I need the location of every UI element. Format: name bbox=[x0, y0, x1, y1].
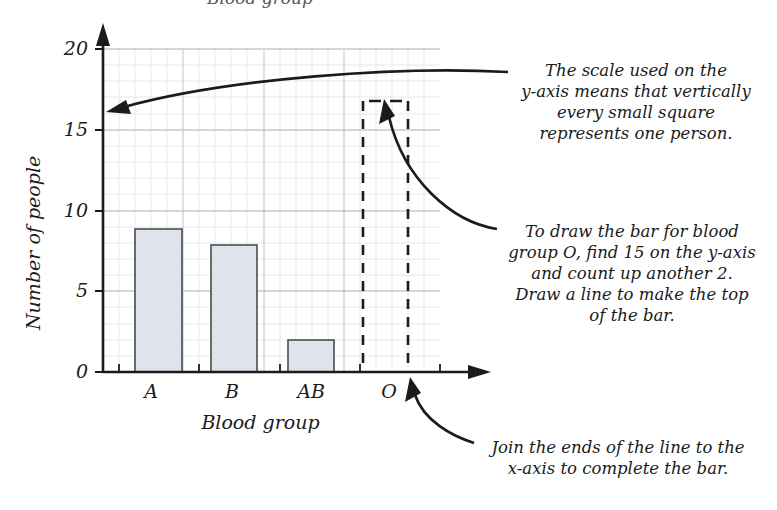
bar-ab bbox=[288, 340, 334, 372]
annotation-curve-scale-note bbox=[124, 70, 508, 107]
annotation-scale-note-line-4: represents one person. bbox=[505, 123, 767, 144]
annotation-curve-join-ends-note bbox=[415, 395, 474, 443]
annotation-scale-note-line-2: y-axis means that vertically bbox=[505, 81, 767, 102]
figure-canvas: Blood group bbox=[0, 0, 777, 510]
annotation-draw-bar-note-line-2: group O, find 15 on the y-axis bbox=[492, 242, 772, 263]
annotation-scale-note-line-3: every small square bbox=[505, 102, 767, 123]
x-category-label-a: A bbox=[129, 380, 173, 402]
y-tick-label-10: 10 bbox=[44, 199, 88, 221]
bar-b bbox=[211, 245, 257, 372]
annotation-scale-note-line-1: The scale used on the bbox=[505, 60, 767, 81]
x-category-label-b: B bbox=[210, 380, 254, 402]
bar-a bbox=[135, 229, 182, 372]
y-tick-label-5: 5 bbox=[44, 279, 88, 301]
annotation-draw-bar-note-line-3: and count up another 2. bbox=[492, 263, 772, 284]
x-axis-arrowhead bbox=[468, 365, 491, 379]
annotation-draw-bar-note-line-4: Draw a line to make the top bbox=[492, 284, 772, 305]
annotation-join-ends-note-line-2: x-axis to complete the bar. bbox=[468, 458, 768, 479]
y-tick-label-0: 0 bbox=[44, 360, 88, 382]
x-category-label-ab: AB bbox=[285, 380, 337, 402]
annotation-draw-bar-note: To draw the bar for blood group O, find … bbox=[492, 221, 772, 327]
x-axis-title: Blood group bbox=[168, 411, 353, 433]
x-category-label-o: O bbox=[367, 380, 411, 402]
annotation-draw-bar-note-line-1: To draw the bar for blood bbox=[492, 221, 772, 242]
y-axis-arrowhead bbox=[96, 23, 110, 46]
y-tick-label-20: 20 bbox=[44, 37, 88, 59]
annotation-curve-draw-bar-note bbox=[389, 117, 497, 229]
y-axis-title: Number of people bbox=[22, 156, 44, 330]
annotation-join-ends-note: Join the ends of the line to the x-axis … bbox=[468, 437, 768, 479]
annotation-scale-note: The scale used on the y-axis means that … bbox=[505, 60, 767, 144]
annotation-arrowhead-draw-bar-note bbox=[379, 99, 395, 124]
bar-o-dashed-outline bbox=[363, 101, 408, 371]
y-tick-label-15: 15 bbox=[44, 118, 88, 140]
annotation-draw-bar-note-line-5: of the bar. bbox=[492, 305, 772, 326]
annotation-join-ends-note-line-1: Join the ends of the line to the bbox=[468, 437, 768, 458]
